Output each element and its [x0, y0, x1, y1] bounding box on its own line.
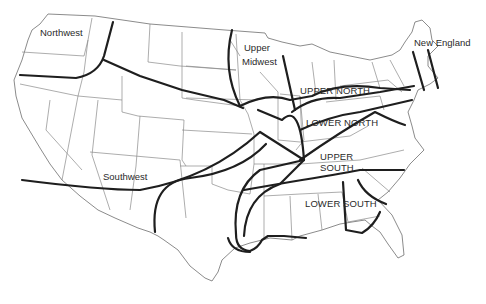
label-southwest: Southwest [103, 171, 147, 182]
label-upper-south-line1: UPPER [320, 151, 353, 162]
us-outline [14, 14, 438, 281]
label-northwest: Northwest [40, 27, 83, 38]
label-upper-south-line2: SOUTH [320, 162, 354, 173]
label-upper-midwest-line2: Midwest [242, 56, 277, 67]
label-upper-midwest-line1: Upper [244, 42, 270, 53]
label-lower-north: LOWER NORTH [306, 117, 378, 128]
label-lower-south: LOWER SOUTH [305, 198, 377, 209]
label-new-england: New England [414, 37, 471, 48]
label-upper-north: UPPER NORTH [300, 85, 370, 96]
